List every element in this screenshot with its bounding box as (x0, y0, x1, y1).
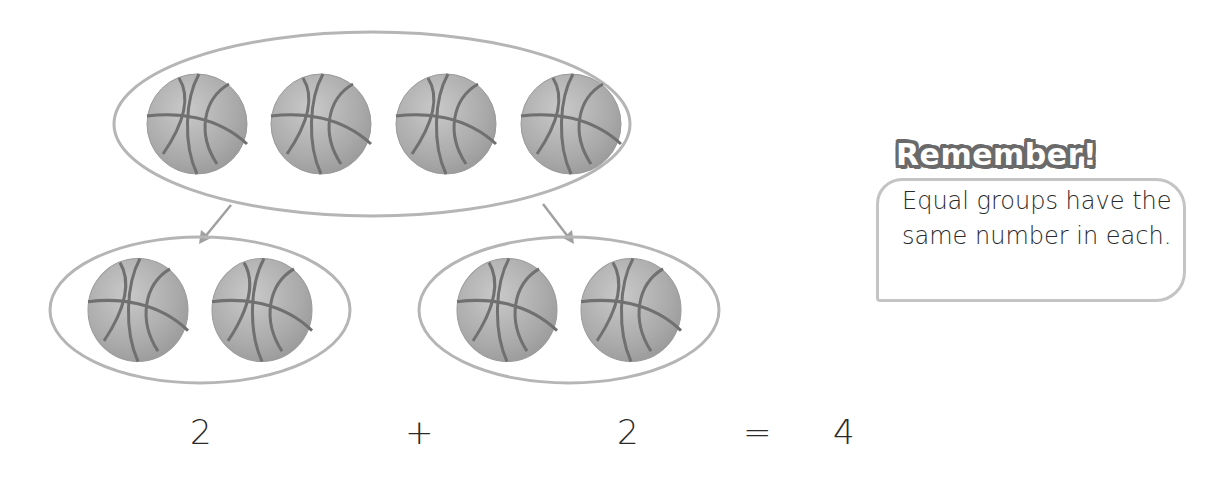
equal-groups-diagram: 2 + 2 = 4 Remember! Equal groups have th… (0, 0, 1220, 486)
equals-sign: = (743, 412, 772, 452)
basketball-icon (521, 74, 621, 174)
addend-1: 2 (190, 412, 212, 452)
part-group-2 (419, 237, 719, 383)
plus-sign: + (405, 412, 434, 452)
basketball-icon (457, 259, 557, 362)
sum: 4 (833, 412, 855, 452)
basketball-icon (212, 259, 312, 362)
part-group-1 (50, 237, 350, 383)
basketball-icon (271, 74, 371, 174)
whole-group (114, 32, 630, 216)
basketball-icon (396, 74, 496, 174)
basketball-icon (88, 259, 188, 362)
addend-2: 2 (617, 412, 639, 452)
callout-title: Remember! (896, 137, 1097, 173)
basketball-icon (581, 259, 681, 362)
basketball-icon (147, 74, 247, 174)
callout-body: Equal groups have the same number in eac… (902, 184, 1192, 254)
